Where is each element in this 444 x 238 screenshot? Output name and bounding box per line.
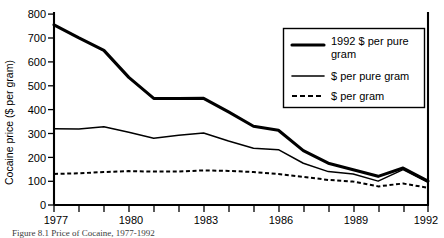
y-tick-label: 500	[28, 80, 46, 92]
y-tick-label: 400	[28, 104, 46, 116]
legend-label-1: $ per pure gram	[331, 70, 409, 82]
x-tick-label: 1983	[194, 214, 218, 226]
y-tick-label: 800	[28, 8, 46, 20]
x-tick-label: 1986	[269, 214, 293, 226]
legend-label-0-line2: gram	[331, 48, 356, 60]
y-axis-title: Cocaine price ($ per gram)	[3, 60, 15, 185]
figure-container: Cocaine price ($ per gram) 800 700 600 5…	[0, 0, 444, 238]
figure-caption: Figure 8.1 Price of Cocaine, 1977-1992	[12, 228, 155, 238]
y-tick-label: 700	[28, 32, 46, 44]
cocaine-price-line-chart: Cocaine price ($ per gram) 800 700 600 5…	[0, 0, 444, 238]
x-tick-label: 1989	[344, 214, 368, 226]
y-tick-label: 300	[28, 128, 46, 140]
y-tick-label: 600	[28, 56, 46, 68]
y-axis-tick-labels: 800 700 600 500 400 300 200 100 0	[28, 8, 46, 211]
legend-label-0-line1: 1992 $ per pure	[331, 35, 409, 47]
x-tick-label: 1977	[44, 214, 68, 226]
legend-label-2: $ per gram	[331, 90, 384, 102]
y-tick-label: 0	[40, 199, 46, 211]
y-tick-label: 200	[28, 152, 46, 164]
chart-legend: 1992 $ per pure gram $ per pure gram $ p…	[284, 29, 425, 108]
x-axis-tick-labels: 1977 1980 1983 1986 1989 1992	[44, 214, 438, 226]
x-tick-label: 1980	[119, 214, 143, 226]
y-tick-label: 100	[28, 175, 46, 187]
x-tick-label: 1992	[414, 214, 438, 226]
